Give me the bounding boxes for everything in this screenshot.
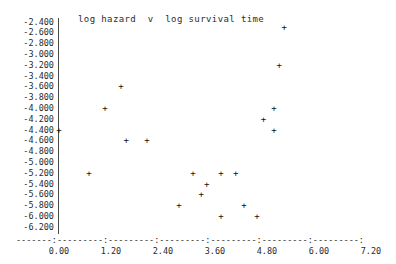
data-point: + [270, 126, 277, 135]
data-point: + [101, 104, 108, 113]
data-point: + [198, 190, 205, 199]
data-point: + [85, 169, 92, 178]
data-point: + [123, 136, 130, 145]
scatter-plot: log hazard v log survival time -2.400-2.… [0, 0, 396, 264]
data-point: + [56, 126, 63, 135]
data-point: + [176, 201, 183, 210]
data-point: + [270, 104, 277, 113]
data-point: + [276, 61, 283, 70]
data-point: + [203, 180, 210, 189]
data-point: + [254, 212, 261, 221]
data-point: + [232, 169, 239, 178]
data-point: + [143, 136, 150, 145]
data-point: + [218, 212, 225, 221]
data-point-layer: ++++++++++++++++++++ [0, 0, 396, 264]
data-point: + [189, 169, 196, 178]
data-point: + [117, 82, 124, 91]
data-point: + [260, 115, 267, 124]
data-point: + [281, 23, 288, 32]
data-point: + [218, 169, 225, 178]
data-point: + [241, 201, 248, 210]
